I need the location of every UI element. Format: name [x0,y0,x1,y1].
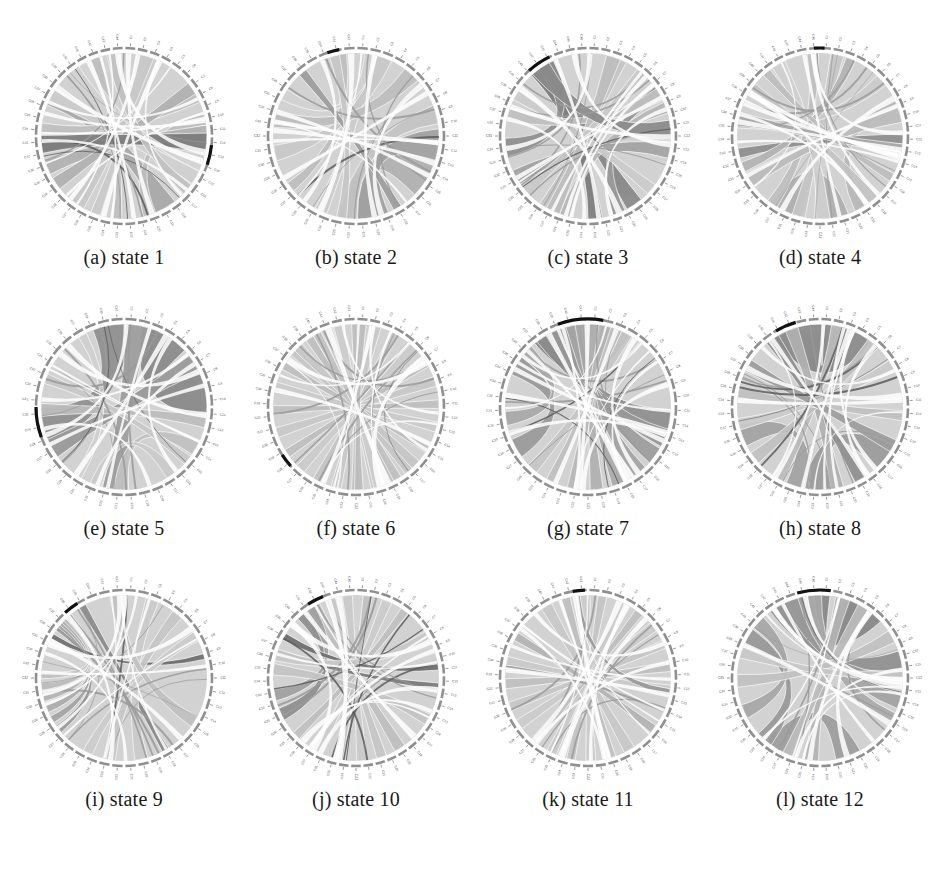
svg-text:C25: C25 [543,764,549,771]
svg-text:C9: C9 [218,381,223,386]
svg-text:C7: C7 [431,614,437,620]
svg-text:C29: C29 [500,726,507,733]
svg-text:C4: C4 [634,589,640,595]
svg-text:C23: C23 [818,232,822,238]
svg-text:C13: C13 [217,154,224,159]
svg-text:C1: C1 [825,35,829,40]
svg-text:C33: C33 [486,672,492,676]
svg-text:C4: C4 [636,319,642,325]
svg-text:C9: C9 [908,636,914,641]
svg-text:C17: C17 [651,748,658,755]
svg-text:C17: C17 [182,752,189,759]
svg-text:C2: C2 [839,308,844,313]
svg-text:C16: C16 [435,730,442,737]
svg-text:C7: C7 [668,350,674,356]
svg-text:C24: C24 [85,766,91,773]
svg-text:C17: C17 [642,484,649,491]
panel-caption-state-9: (i) state 9 [8,788,240,811]
svg-text:C37: C37 [504,617,511,624]
svg-text:C36: C36 [271,77,278,84]
svg-text:C15: C15 [437,455,444,462]
svg-text:C39: C39 [71,589,78,596]
svg-text:C20: C20 [631,220,637,227]
chord-plot-state-5: C1C2C3C4C5C6C7C8C9C10C11C12C13C14C15C16C… [8,297,240,517]
svg-text:C13: C13 [913,425,920,430]
svg-text:C25: C25 [790,228,796,235]
svg-text:C13: C13 [448,429,455,434]
svg-text:C10: C10 [912,648,919,653]
svg-text:C36: C36 [721,109,728,114]
svg-text:C34: C34 [719,689,726,694]
svg-text:C23: C23 [115,231,119,237]
svg-text:C8: C8 [213,366,219,371]
svg-text:C31: C31 [255,148,262,153]
svg-text:C12: C12 [916,676,922,680]
svg-text:C12: C12 [682,423,689,428]
svg-text:C30: C30 [493,714,500,720]
svg-text:C5: C5 [411,595,417,601]
svg-text:C33: C33 [29,366,36,372]
svg-text:C34: C34 [36,352,43,359]
svg-text:C27: C27 [61,211,68,218]
svg-text:C16: C16 [669,184,676,191]
svg-text:C20: C20 [614,769,620,776]
svg-text:C11: C11 [916,398,922,402]
panel-caption-state-12: (l) state 12 [704,788,936,811]
svg-text:C30: C30 [740,737,747,744]
svg-text:C40: C40 [508,70,515,77]
svg-text:C29: C29 [491,437,498,443]
chord-panel-state-10: C1C2C3C4C5C6C7C8C9C10C11C12C13C14C15C16C… [240,568,472,811]
svg-text:C14: C14 [672,451,679,457]
svg-text:C12: C12 [451,148,458,153]
svg-text:C9: C9 [681,378,686,383]
svg-text:C25: C25 [565,229,570,236]
svg-text:C31: C31 [257,429,264,434]
svg-text:C23: C23 [593,232,597,238]
svg-text:C17: C17 [419,477,426,484]
svg-text:C28: C28 [276,467,283,474]
svg-text:C42: C42 [115,576,119,582]
svg-text:C39: C39 [292,325,299,332]
svg-text:C19: C19 [405,758,412,765]
svg-text:C2: C2 [374,579,379,584]
svg-text:C40: C40 [284,603,291,610]
svg-text:C34: C34 [255,386,262,391]
chord-plot-state-11: C1C2C3C4C5C6C7C8C9C10C11C12C13C14C15C16C… [472,568,704,788]
chord-plot-state-9: C1C2C3C4C5C6C7C8C9C10C11C12C13C14C15C16C… [8,568,240,788]
svg-text:C25: C25 [303,218,310,225]
svg-text:C11: C11 [684,409,690,413]
svg-text:C20: C20 [857,223,863,230]
svg-text:C28: C28 [508,738,515,745]
svg-text:C10: C10 [682,657,689,662]
svg-text:C43: C43 [101,36,106,43]
svg-text:C36: C36 [487,120,494,125]
svg-text:C3: C3 [618,40,623,45]
svg-text:C24: C24 [69,488,76,495]
svg-text:C15: C15 [202,730,209,737]
svg-text:C33: C33 [718,412,724,416]
svg-text:C6: C6 [196,340,202,346]
svg-text:C17: C17 [887,473,894,480]
svg-text:C38: C38 [59,597,66,604]
svg-text:C22: C22 [354,503,358,509]
svg-text:C16: C16 [185,479,192,486]
svg-text:C2: C2 [375,37,380,42]
svg-text:C42: C42 [783,311,789,318]
svg-text:C37: C37 [522,327,529,334]
svg-text:C14: C14 [444,443,451,449]
svg-text:C38: C38 [731,83,738,90]
svg-text:C33: C33 [489,160,496,165]
svg-text:C11: C11 [220,676,226,680]
chord-panel-state-6: C1C2C3C4C5C6C7C8C9C10C11C12C13C14C15C16C… [240,297,472,540]
svg-text:C26: C26 [530,757,537,764]
chord-plot-state-7: C1C2C3C4C5C6C7C8C9C10C11C12C13C14C15C16C… [472,297,704,517]
svg-text:C23: C23 [99,771,104,778]
svg-text:C42: C42 [307,587,313,594]
svg-text:C15: C15 [669,726,676,733]
svg-text:C35: C35 [259,372,266,378]
svg-text:C38: C38 [291,55,298,62]
svg-text:C3: C3 [157,583,162,588]
svg-text:C32: C32 [720,425,727,430]
svg-text:C22: C22 [98,500,103,507]
svg-text:C7: C7 [206,352,212,358]
